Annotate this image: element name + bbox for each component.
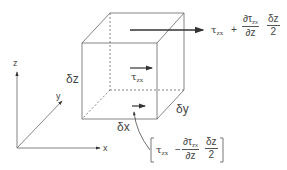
coordinate-axes — [17, 72, 100, 148]
bottom-stress-operator: − — [175, 145, 181, 155]
y-axis-label: y — [56, 92, 61, 101]
bottom-label-leader — [134, 112, 150, 150]
dim-z-label: δz — [66, 73, 79, 85]
bottom-stress-half-dz: δz2 — [205, 137, 218, 160]
cube-element — [82, 13, 184, 119]
top-stress-tau: τzx — [211, 25, 223, 36]
z-axis-label: z — [13, 59, 18, 68]
top-stress-operator: + — [231, 25, 237, 35]
y-axis — [17, 101, 62, 148]
x-axis-label: x — [103, 144, 108, 153]
top-stress-derivative: ∂τzx∂z — [242, 14, 259, 38]
dim-y-label: δy — [176, 103, 189, 115]
top-stress-half-dz: δz2 — [267, 14, 280, 37]
dim-x-label: δx — [117, 121, 130, 133]
bottom-stress-tau: τzx — [156, 145, 168, 156]
bottom-stress-derivative: ∂τzx∂z — [182, 137, 199, 161]
cube-hidden-edges — [82, 13, 184, 119]
center-stress-label: τzx — [131, 72, 143, 83]
